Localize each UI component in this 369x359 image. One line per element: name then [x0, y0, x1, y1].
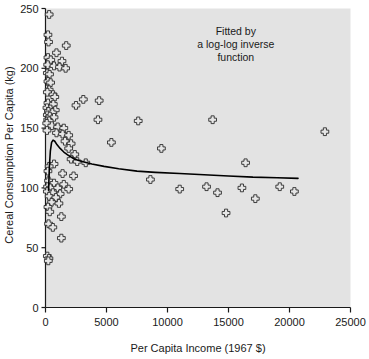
y-tick-label: 150	[20, 122, 38, 134]
x-tick-label: 25000	[335, 316, 366, 328]
annotation-line: Fitted by	[216, 25, 257, 37]
x-tick-label: 20000	[274, 316, 305, 328]
x-tick-label: 5000	[94, 316, 118, 328]
scatter-plot-svg: 050100150200250 050001000015000200002500…	[0, 0, 369, 359]
y-axis-label: Cereal Consumption Per Capita (kg)	[3, 66, 15, 243]
x-tick-label: 0	[42, 316, 48, 328]
y-tick-label: 100	[20, 182, 38, 194]
chart-figure: 050100150200250 050001000015000200002500…	[0, 0, 369, 359]
annotation-line: a log-log inverse	[197, 38, 274, 50]
annotation-line: function	[217, 51, 254, 63]
y-tick-label: 0	[32, 302, 38, 314]
x-axis-label: Per Capita Income (1967 $)	[130, 342, 265, 354]
y-tick-label: 200	[20, 62, 38, 74]
x-tick-label: 15000	[213, 316, 244, 328]
plot-area-background	[46, 9, 351, 308]
y-tick-label: 250	[20, 3, 38, 15]
y-tick-label: 50	[26, 242, 38, 254]
x-tick-label: 10000	[152, 316, 183, 328]
